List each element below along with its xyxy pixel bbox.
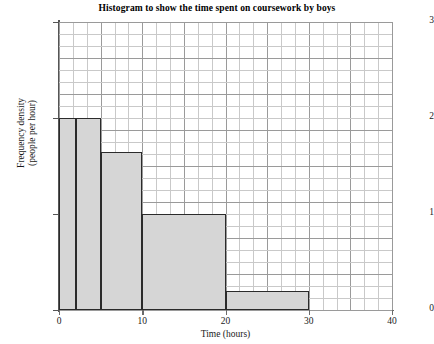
x-axis-tick-label: 0 <box>39 316 79 326</box>
histogram-bar <box>59 118 76 310</box>
y-axis-tick-label: 2 <box>388 112 434 122</box>
histogram-bar <box>76 118 101 310</box>
y-axis-tick <box>53 118 59 119</box>
x-axis-tick <box>142 310 143 315</box>
y-axis-label-line1: Frequency density <box>16 43 27 223</box>
y-axis-tick-label: 1 <box>388 208 434 218</box>
histogram-bar <box>142 214 225 310</box>
histogram-bar <box>226 291 309 310</box>
histogram-figure: Histogram to show the time spent on cour… <box>0 0 434 344</box>
x-axis-tick <box>392 310 393 315</box>
y-axis-label: Frequency density (people per hour) <box>16 43 38 223</box>
x-axis-tick <box>59 310 60 315</box>
plot-area <box>59 22 392 310</box>
y-axis-tick-label: 0 <box>388 304 434 314</box>
x-axis-tick-label: 40 <box>372 316 412 326</box>
x-axis-tick-label: 10 <box>122 316 162 326</box>
x-axis-tick-label: 20 <box>206 316 246 326</box>
x-axis-label: Time (hours) <box>59 329 392 339</box>
x-axis-tick <box>309 310 310 315</box>
x-axis-tick <box>226 310 227 315</box>
y-axis-tick <box>53 214 59 215</box>
bars-layer <box>59 22 392 310</box>
page-title: Histogram to show the time spent on cour… <box>0 3 434 13</box>
histogram-bar <box>101 152 143 310</box>
y-axis-tick <box>53 22 59 23</box>
y-axis-tick-label: 3 <box>388 16 434 26</box>
y-axis-label-line2: (people per hour) <box>27 43 38 223</box>
x-axis-tick-label: 30 <box>289 316 329 326</box>
grid-line-vertical <box>392 22 393 310</box>
